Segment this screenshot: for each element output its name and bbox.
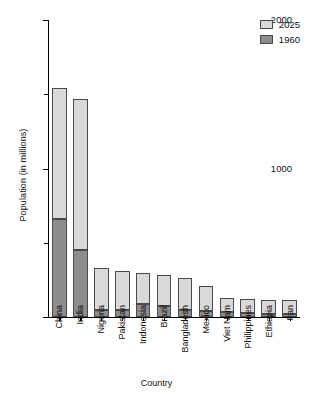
x-axis-label-china: China xyxy=(55,305,64,329)
bar-slot xyxy=(258,20,279,317)
x-axis-label-bangladesh: Bangladesh xyxy=(180,305,189,353)
x-label-slot: Iran xyxy=(279,303,300,365)
bar-india[interactable] xyxy=(73,99,88,317)
bar-slot xyxy=(195,20,216,317)
x-label-slot: Bangladesh xyxy=(175,303,196,365)
x-axis-label-mexico: Mexico xyxy=(201,305,210,334)
x-label-slot: Pakistan xyxy=(112,303,133,365)
legend-label: 1960 xyxy=(279,34,300,45)
x-label-slot: India xyxy=(70,303,91,365)
x-axis-label-viet-nam: Viet Nam xyxy=(222,305,231,342)
bar-slot xyxy=(279,20,300,317)
bar-slot xyxy=(154,20,175,317)
legend: 20251960 xyxy=(260,19,300,49)
legend-item-1960[interactable]: 1960 xyxy=(260,34,300,45)
legend-swatch-icon xyxy=(260,35,273,44)
bar-slot xyxy=(112,20,133,317)
x-axis-category-labels: ChinaIndiaNigeriaPakistanIndonesiaBrazil… xyxy=(49,303,300,365)
bar-chart: Population (in millions) 010002000 China… xyxy=(0,0,313,399)
y-tick-minor xyxy=(44,243,48,244)
bar-slot xyxy=(70,20,91,317)
bar-segment-2025 xyxy=(157,275,172,307)
x-axis-title: Country xyxy=(0,378,313,388)
x-axis-label-indonesia: Indonesia xyxy=(139,305,148,344)
bar-segment-2025 xyxy=(73,99,88,250)
bar-slot xyxy=(133,20,154,317)
plot-area: 010002000 xyxy=(48,20,300,317)
bar-china[interactable] xyxy=(52,88,67,317)
x-label-slot: Viet Nam xyxy=(216,303,237,365)
x-label-slot: Brazil xyxy=(154,303,175,365)
bar-slot xyxy=(216,20,237,317)
x-label-slot: Nigeria xyxy=(91,303,112,365)
y-axis-title: Population (in millions) xyxy=(18,100,28,250)
x-axis-label-nigeria: Nigeria xyxy=(97,305,106,334)
x-label-slot: Indonesia xyxy=(133,303,154,365)
bar-slot xyxy=(91,20,112,317)
x-axis-label-philippines: Philippines xyxy=(243,305,252,349)
legend-label: 2025 xyxy=(279,19,300,30)
bar-segment-2025 xyxy=(136,273,151,304)
x-label-slot: Mexico xyxy=(195,303,216,365)
y-tick-major xyxy=(43,169,48,170)
x-axis-label-india: India xyxy=(76,305,85,325)
x-axis-label-pakistan: Pakistan xyxy=(118,305,127,340)
bar-slot xyxy=(175,20,196,317)
x-label-slot: Philippines xyxy=(237,303,258,365)
y-tick-major xyxy=(43,317,48,318)
legend-swatch-icon xyxy=(260,20,273,29)
bar-slot xyxy=(237,20,258,317)
y-tick-major xyxy=(43,20,48,21)
x-axis-label-brazil: Brazil xyxy=(160,305,169,328)
bar-group xyxy=(49,20,300,317)
x-axis-label-ethiopia: Ethiopia xyxy=(264,305,273,338)
bar-segment-2025 xyxy=(52,88,67,219)
x-axis-label-iran: Iran xyxy=(285,305,294,321)
y-tick-minor xyxy=(44,94,48,95)
x-label-slot: China xyxy=(49,303,70,365)
x-label-slot: Ethiopia xyxy=(258,303,279,365)
legend-item-2025[interactable]: 2025 xyxy=(260,19,300,30)
bar-slot xyxy=(49,20,70,317)
